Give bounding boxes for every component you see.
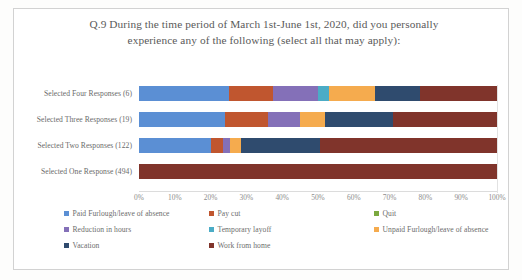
bar-segment[interactable] — [223, 138, 230, 153]
x-axis-tick-labels: 0%10%20%30%40%50%60%70%80%90%100% — [139, 193, 497, 205]
bar-segment[interactable] — [211, 138, 224, 153]
x-tick-label: 30% — [240, 193, 254, 202]
x-tick-label: 0% — [134, 193, 144, 202]
stacked-bar[interactable] — [139, 86, 497, 101]
x-tick-label: 90% — [454, 193, 468, 202]
bar-row: Selected One Response (494) — [14, 163, 510, 193]
bar-segment[interactable] — [241, 138, 320, 153]
legend-swatch-icon — [209, 243, 214, 248]
bar-segment[interactable] — [230, 138, 241, 153]
plot-right-border — [497, 85, 498, 193]
legend-label: Temporary layoff — [218, 225, 272, 234]
legend-label: Paid Furlough/leave of absence — [73, 209, 170, 218]
legend-label: Quit — [383, 209, 397, 218]
legend-label: Pay cut — [218, 209, 241, 218]
x-tick-label: 10% — [168, 193, 182, 202]
legend-item[interactable]: Quit — [374, 209, 396, 218]
legend-item[interactable]: Pay cut — [209, 209, 240, 218]
bar-segment[interactable] — [300, 112, 325, 127]
bar-segment[interactable] — [325, 112, 393, 127]
x-tick-label: 60% — [347, 193, 361, 202]
chart-frame: Q.9 During the time period of March 1st-… — [13, 8, 509, 270]
bar-segment[interactable] — [139, 164, 497, 179]
bar-segment[interactable] — [318, 86, 329, 101]
legend-item[interactable]: Temporary layoff — [209, 225, 271, 234]
legend-swatch-icon — [374, 227, 379, 232]
x-tick-label: 20% — [204, 193, 218, 202]
legend-label: Vacation — [73, 241, 100, 250]
bar-segment[interactable] — [229, 86, 274, 101]
x-tick-label: 100% — [488, 193, 505, 202]
legend-label: Work from home — [218, 241, 271, 250]
bar-segment[interactable] — [139, 86, 229, 101]
x-tick-label: 50% — [311, 193, 325, 202]
bar-segment[interactable] — [420, 86, 497, 101]
chart-title: Q.9 During the time period of March 1st-… — [69, 17, 459, 48]
legend-label: Reduction in hours — [73, 225, 132, 234]
bar-segment[interactable] — [320, 138, 497, 153]
legend-label: Unpaid Furlough/leave of absence — [383, 225, 489, 234]
bar-segment[interactable] — [273, 86, 318, 101]
bar-segment[interactable] — [329, 86, 376, 101]
stacked-bar[interactable] — [139, 138, 497, 153]
stacked-bar[interactable] — [139, 164, 497, 179]
legend-swatch-icon — [374, 211, 379, 216]
x-tick-label: 70% — [383, 193, 397, 202]
stacked-bar[interactable] — [139, 112, 497, 127]
x-tick-label: 40% — [275, 193, 289, 202]
legend-item[interactable]: Vacation — [64, 241, 99, 250]
legend-item[interactable]: Work from home — [209, 241, 270, 250]
scanned-page: Q.9 During the time period of March 1st-… — [0, 0, 522, 280]
bar-segment[interactable] — [139, 138, 211, 153]
chart-legend: Paid Furlough/leave of absencePay cutQui… — [64, 209, 494, 259]
plot-area: Selected Four Responses (6) Selected Thr… — [14, 81, 510, 203]
bar-segment[interactable] — [375, 86, 420, 101]
category-label: Selected Three Responses (19) — [14, 115, 132, 125]
bar-segment[interactable] — [268, 112, 300, 127]
x-axis-line — [139, 191, 497, 192]
x-tick-label: 80% — [419, 193, 433, 202]
legend-swatch-icon — [209, 227, 214, 232]
legend-item[interactable]: Paid Furlough/leave of absence — [64, 209, 170, 218]
legend-item[interactable]: Reduction in hours — [64, 225, 131, 234]
legend-swatch-icon — [209, 211, 214, 216]
bar-segment[interactable] — [139, 112, 225, 127]
category-label: Selected One Response (494) — [14, 167, 132, 177]
legend-swatch-icon — [64, 227, 69, 232]
bar-segment[interactable] — [393, 112, 497, 127]
category-label: Selected Four Responses (6) — [14, 89, 132, 99]
legend-swatch-icon — [64, 243, 69, 248]
legend-item[interactable]: Unpaid Furlough/leave of absence — [374, 225, 488, 234]
legend-swatch-icon — [64, 211, 69, 216]
category-label: Selected Two Responses (122) — [14, 141, 132, 151]
bar-segment[interactable] — [225, 112, 268, 127]
